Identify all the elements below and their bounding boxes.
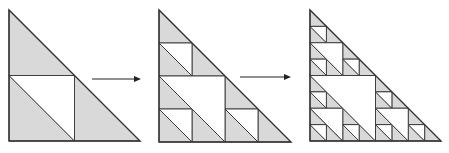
arrow-1-icon (92, 76, 141, 82)
sierpinski-stage-2 (159, 10, 291, 142)
arrow-2-icon (240, 74, 291, 80)
sierpinski-stage-1 (9, 10, 140, 141)
sierpinski-diagram (0, 0, 449, 153)
sierpinski-stage-3 (310, 10, 441, 141)
